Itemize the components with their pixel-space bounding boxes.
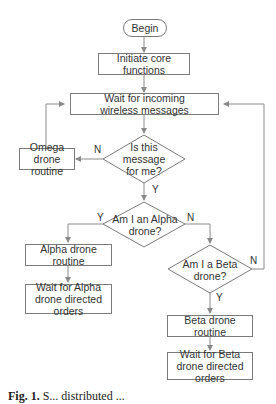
omega-label: Omega drone routine — [27, 141, 67, 177]
beta-routine-label: Beta drone routine — [168, 314, 252, 338]
alpha-wait-label: Wait for Alpha drone directed orders — [29, 281, 109, 317]
edge-label-for-me-no: N — [94, 144, 101, 155]
alpha-routine-node: Alpha drone routine — [25, 244, 112, 266]
is-alpha-label: Am I an Alpha drone? — [112, 212, 178, 238]
beta-wait-node: Wait for Beta drone directed orders — [167, 352, 253, 380]
is-for-me-label: Is this message for me? — [118, 140, 170, 178]
alpha-wait-node: Wait for Alpha drone directed orders — [25, 284, 112, 314]
wait-node: Wait for incoming wireless messages — [70, 93, 219, 115]
edge-label-alpha-no: N — [187, 212, 194, 223]
caption-text: S... distributed ... — [43, 389, 125, 403]
begin-label: Begin — [132, 22, 159, 34]
omega-node: Omega drone routine — [19, 148, 75, 170]
is-beta-label: Am I a Beta drone? — [180, 257, 240, 283]
beta-routine-node: Beta drone routine — [167, 315, 253, 337]
alpha-routine-label: Alpha drone routine — [26, 243, 111, 267]
caption-prefix: Fig. 1. — [8, 389, 40, 403]
wait-label: Wait for incoming wireless messages — [85, 92, 205, 116]
init-label: Initiate core functions — [109, 52, 179, 76]
edge-label-beta-no: N — [250, 255, 257, 266]
init-node: Initiate core functions — [98, 53, 190, 75]
figure-caption: Fig. 1. S... distributed ... — [8, 389, 125, 404]
begin-node: Begin — [123, 19, 167, 37]
edge-label-for-me-yes: Y — [152, 184, 159, 195]
beta-wait-label: Wait for Beta drone directed orders — [168, 348, 252, 384]
edge-label-beta-yes: Y — [216, 292, 223, 303]
edge-label-alpha-yes: Y — [97, 212, 104, 223]
